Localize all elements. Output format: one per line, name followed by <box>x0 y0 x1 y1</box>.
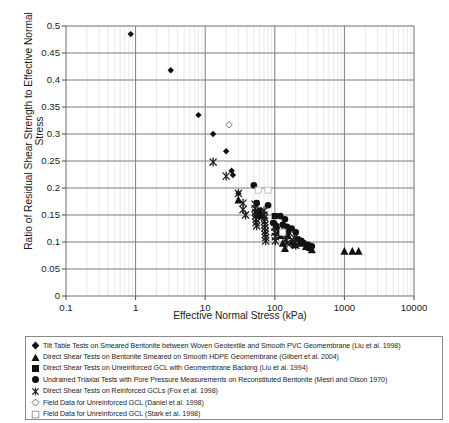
x-tick-label: 100 <box>245 302 305 313</box>
y-tick-label: 0.4 <box>20 74 60 85</box>
data-point <box>223 172 229 180</box>
legend-item-label: Direct Shear Tests on Reinforced GCLs (F… <box>43 387 218 395</box>
y-tick-label: 0.35 <box>20 101 60 112</box>
legend-box: Tilt Table Tests on Smeared Bentonite be… <box>25 336 443 420</box>
x-tick-label: 1 <box>106 302 166 313</box>
legend-item-1: Direct Shear Tests on Bentonite Smeared … <box>30 351 438 362</box>
legend-item-label: Direct Shear Tests on Unreinforced GCL w… <box>43 364 308 372</box>
y-tick-label: 0.15 <box>20 209 60 220</box>
open-square-icon <box>30 409 41 420</box>
x-tick-label: 1000 <box>314 302 374 313</box>
legend-item-0: Tilt Table Tests on Smeared Bentonite be… <box>30 340 438 351</box>
data-point <box>280 229 286 235</box>
x-tick-label: 10000 <box>384 302 444 313</box>
data-point <box>308 243 315 250</box>
data-point <box>255 187 261 193</box>
scatter-plot-canvas <box>0 0 449 330</box>
data-point <box>292 229 299 236</box>
data-point <box>265 202 272 209</box>
data-point <box>355 247 363 255</box>
filled-diamond-icon <box>30 340 41 351</box>
open-diamond-icon <box>30 397 41 408</box>
y-tick-label: 0 <box>20 290 60 301</box>
data-point <box>226 122 232 128</box>
y-tick-label: 0.3 <box>20 128 60 139</box>
legend-item-label: Field Data for Unreinforced GCL (Stark e… <box>43 410 200 418</box>
data-point <box>272 213 278 219</box>
filled-square-icon <box>30 363 41 374</box>
data-point <box>210 158 216 166</box>
legend-item-3: Undrained Triaxial Tests with Pore Press… <box>30 374 438 385</box>
legend-item-label: Tilt Table Tests on Smeared Bentonite be… <box>43 342 401 350</box>
x-tick-label: 0.1 <box>36 302 96 313</box>
legend-item-5: Field Data for Unreinforced GCL (Daniel … <box>30 397 438 408</box>
x-mark-icon <box>30 386 41 397</box>
series-5 <box>226 122 232 128</box>
legend-item-4: Direct Shear Tests on Reinforced GCLs (F… <box>30 386 438 397</box>
y-tick-label: 0.45 <box>20 47 60 58</box>
data-point <box>272 237 278 245</box>
legend-item-label: Direct Shear Tests on Bentonite Smeared … <box>43 353 339 361</box>
data-point <box>265 187 271 193</box>
legend-item-2: Direct Shear Tests on Unreinforced GCL w… <box>30 363 438 374</box>
data-point <box>210 131 216 137</box>
filled-circle-icon <box>30 374 41 385</box>
y-tick-label: 0.5 <box>20 20 60 31</box>
legend-item-label: Field Data for Unreinforced GCL (Daniel … <box>43 399 204 407</box>
x-tick-label: 10 <box>175 302 235 313</box>
data-point <box>223 148 229 154</box>
y-tick-label: 0.1 <box>20 236 60 247</box>
horizontal-gridlines <box>66 53 414 269</box>
data-points-layer <box>127 31 362 255</box>
chart-figure: Ratio of Residual Shear Strength to Effe… <box>0 0 449 330</box>
data-point <box>348 247 356 255</box>
y-tick-label: 0.25 <box>20 155 60 166</box>
filled-triangle-icon <box>30 352 41 363</box>
data-point <box>195 112 201 118</box>
data-point <box>282 216 289 223</box>
y-tick-label: 0.05 <box>20 263 60 274</box>
legend-item-6: Field Data for Unreinforced GCL (Stark e… <box>30 408 438 419</box>
y-tick-label: 0.2 <box>20 182 60 193</box>
legend-item-label: Undrained Triaxial Tests with Pore Press… <box>43 376 387 384</box>
